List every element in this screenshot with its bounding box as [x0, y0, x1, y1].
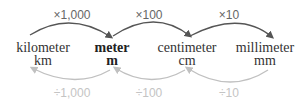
divide-label-m-km: ÷1,000 — [42, 86, 102, 100]
arrow-km-to-m — [30, 23, 111, 37]
unit-abbr: cm — [147, 54, 227, 67]
arrow-m-to-km — [32, 68, 110, 80]
multiply-label-m-cm: ×100 — [119, 8, 179, 22]
unit-abbr: m — [72, 54, 152, 67]
unit-millimeter: millimeter mm — [225, 41, 303, 67]
unit-abbr: km — [3, 54, 83, 67]
unit-abbr: mm — [225, 54, 303, 67]
divide-label-cm-m: ÷100 — [119, 86, 179, 100]
divide-label-mm-cm: ÷10 — [199, 86, 259, 100]
arrow-m-to-cm — [113, 22, 190, 36]
unit-kilometer: kilometer km — [3, 41, 83, 67]
arrow-mm-to-cm — [187, 68, 268, 82]
multiply-label-cm-mm: ×10 — [199, 8, 259, 22]
arrow-cm-to-m — [115, 68, 185, 80]
unit-meter: meter m — [72, 41, 152, 67]
unit-centimeter: centimeter cm — [147, 41, 227, 67]
multiply-label-km-m: ×1,000 — [42, 8, 102, 22]
arrow-cm-to-mm — [190, 23, 272, 37]
